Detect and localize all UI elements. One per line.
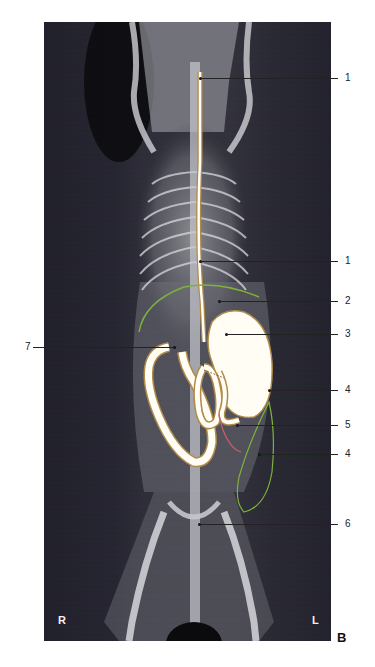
label-4-top: 4 <box>345 385 351 395</box>
leader-line-1-top <box>200 78 338 79</box>
leader-line-6 <box>199 524 338 525</box>
label-5: 5 <box>345 420 351 430</box>
panel-letter: B <box>337 630 346 645</box>
label-4-bottom: 4 <box>345 449 351 459</box>
leader-line-4-bottom <box>259 454 338 455</box>
label-7: 7 <box>25 342 31 352</box>
label-6: 6 <box>345 519 351 529</box>
leader-line-1-mid <box>200 261 338 262</box>
leader-line-2 <box>219 301 338 302</box>
label-3: 3 <box>345 329 351 339</box>
leader-line-3 <box>226 334 338 335</box>
leader-line-5 <box>237 425 338 426</box>
leader-line-4-top <box>269 390 338 391</box>
label-1-top: 1 <box>345 73 351 83</box>
label-1-mid: 1 <box>345 256 351 266</box>
label-2: 2 <box>345 296 351 306</box>
pointer-dot-7 <box>173 346 176 349</box>
orientation-right-marker: R <box>58 614 66 626</box>
radiograph-image: R L <box>44 22 331 641</box>
orientation-left-marker: L <box>312 614 319 626</box>
radiograph-drawing <box>44 22 331 641</box>
leader-line-7 <box>33 347 173 348</box>
